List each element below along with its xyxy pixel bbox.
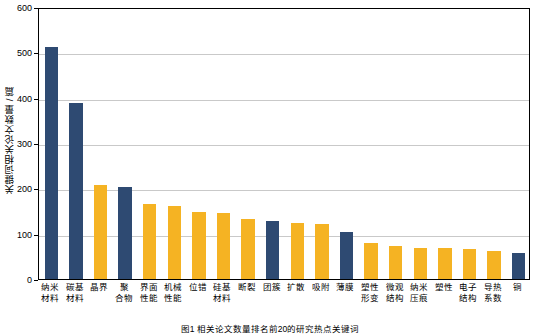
- bar: [143, 204, 157, 279]
- x-axis-labels: 纳米 材料碳基 材料晶界聚 合物界面 性能机械 性能位错硅基 材料断裂团簇扩散吸…: [38, 282, 530, 324]
- plot-frame: [38, 8, 530, 280]
- bar: [241, 219, 255, 279]
- y-tick-label: 0: [0, 275, 32, 285]
- bar: [364, 243, 378, 279]
- bar: [45, 47, 59, 279]
- bar: [118, 187, 132, 279]
- x-tick-label: 铜: [502, 282, 533, 293]
- y-tick-label: 300: [0, 139, 32, 149]
- y-tick-mark: [34, 99, 38, 100]
- y-tick-label: 500: [0, 48, 32, 58]
- y-tick-mark: [34, 8, 38, 9]
- bar: [414, 248, 428, 279]
- bar: [217, 213, 231, 279]
- bar: [463, 249, 477, 279]
- y-tick-mark: [34, 280, 38, 281]
- y-tick-mark: [34, 53, 38, 54]
- y-tick-mark: [34, 189, 38, 190]
- y-tick-label: 100: [0, 230, 32, 240]
- bar: [315, 224, 329, 279]
- y-tick-label: 400: [0, 94, 32, 104]
- bar: [487, 251, 501, 279]
- bar: [192, 212, 206, 279]
- chart-figure: 关键词相关论文数量 / 篇 0100200300400500600 纳米 材料碳…: [0, 0, 540, 336]
- bar: [168, 206, 182, 279]
- y-tick-mark: [34, 144, 38, 145]
- y-tick-mark: [34, 235, 38, 236]
- bar: [340, 232, 354, 279]
- bar: [291, 223, 305, 279]
- bar: [266, 221, 280, 279]
- bar: [438, 248, 452, 279]
- bar-series: [39, 9, 529, 279]
- bar: [389, 246, 403, 279]
- bar: [69, 103, 83, 279]
- bar: [94, 185, 108, 279]
- y-tick-label: 600: [0, 3, 32, 13]
- figure-caption: 图1 相关论文数量排名前20的研究热点关键词: [0, 322, 540, 334]
- bar: [512, 253, 526, 279]
- plot-area: 0100200300400500600: [38, 8, 530, 280]
- y-tick-label: 200: [0, 184, 32, 194]
